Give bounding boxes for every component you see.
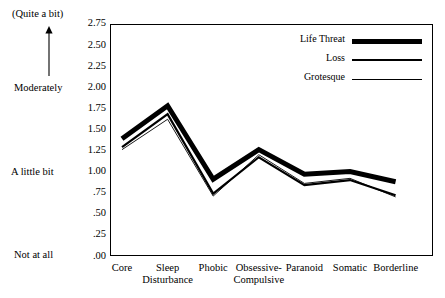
y-tick-label: 1.50 — [76, 124, 106, 135]
anchor-label-a-little-bit: A little bit — [11, 166, 54, 177]
x-tick-label: Core — [112, 262, 132, 274]
y-tick-label: .25 — [76, 229, 106, 240]
y-tick-label: 2.50 — [76, 40, 106, 51]
chart-figure: (Quite a bit) Moderately A little bit No… — [0, 0, 445, 298]
y-tick-label: 1.75 — [76, 103, 106, 114]
legend-label: Loss — [326, 52, 345, 63]
y-tick-label: 2.25 — [76, 61, 106, 72]
legend-label: Life Threat — [300, 33, 345, 44]
x-tick-label: Phobic — [199, 262, 228, 274]
up-arrow-icon — [43, 26, 55, 76]
legend-swatch — [352, 39, 422, 44]
y-tick-label: 2.00 — [76, 82, 106, 93]
x-tick-label: Obsessive-Compulsive — [233, 262, 284, 286]
anchor-label-not-at-all: Not at all — [14, 249, 53, 260]
legend: Life ThreatLossGrotesque — [268, 33, 428, 93]
x-tick-label: Somatic — [333, 262, 367, 274]
legend-swatch — [352, 59, 422, 61]
x-tick-label: SleepDisturbance — [142, 262, 193, 286]
y-tick-label: .00 — [76, 251, 106, 262]
legend-item: Grotesque — [268, 71, 428, 89]
legend-item: Loss — [268, 52, 428, 70]
y-tick-label: .75 — [76, 187, 106, 198]
x-tick-label: Borderline — [373, 262, 418, 274]
legend-item: Life Threat — [268, 33, 428, 51]
anchor-label-quite-a-bit: (Quite a bit) — [12, 8, 63, 19]
legend-label: Grotesque — [304, 71, 345, 82]
anchor-label-moderately: Moderately — [14, 82, 62, 93]
y-tick-label: .50 — [76, 208, 106, 219]
y-tick-label: 1.25 — [76, 145, 106, 156]
x-tick-label: Paranoid — [286, 262, 323, 274]
y-tick-label: 1.00 — [76, 166, 106, 177]
legend-swatch — [352, 79, 422, 80]
y-tick-label: 2.75 — [76, 18, 106, 29]
